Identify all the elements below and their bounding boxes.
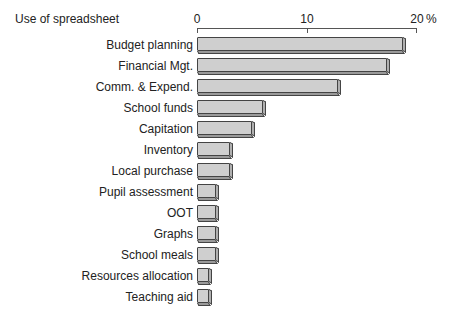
category-label: Budget planning [106,38,193,52]
category-label: Comm. & Expend. [96,80,193,94]
bar [197,142,230,156]
bar [197,205,216,219]
category-label: Inventory [144,143,193,157]
bar [197,79,338,93]
bar [197,163,230,177]
x-tick-0 [197,28,198,33]
category-label: Pupil assessment [99,185,193,199]
bar [197,226,216,240]
category-label: Local purchase [112,164,193,178]
category-label: Capitation [139,122,193,136]
x-tick-20 [416,28,417,33]
x-tick-label-0: 0 [194,12,201,26]
category-label: OOT [167,206,193,220]
x-tick-label-20: 20 [410,12,423,26]
x-axis-unit: % [426,12,437,26]
bar [197,268,209,282]
bar [197,184,216,198]
category-label: School meals [121,248,193,262]
x-tick-label-10: 10 [300,12,313,26]
category-label: Teaching aid [126,290,193,304]
bar [197,100,263,114]
x-tick-10 [307,28,308,33]
bar [197,247,216,261]
chart-title: Use of spreadsheet [15,12,119,26]
category-label: Financial Mgt. [118,59,193,73]
bar [197,58,387,72]
category-label: School funds [124,101,193,115]
category-label: Resources allocation [82,269,193,283]
category-label: Graphs [154,227,193,241]
bar [197,37,403,51]
bar [197,289,209,303]
bar [197,121,252,135]
